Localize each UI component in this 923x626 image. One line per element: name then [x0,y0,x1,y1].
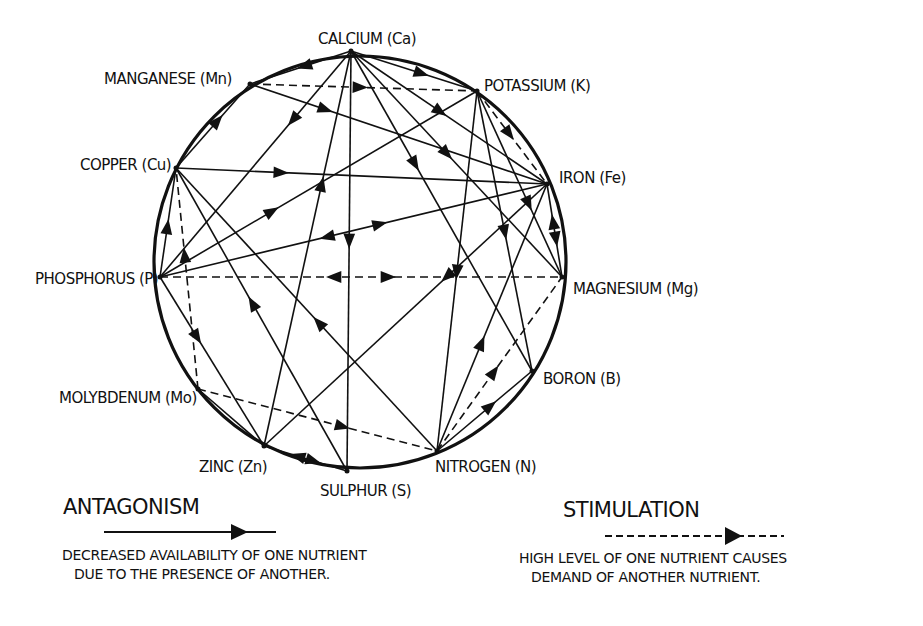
arrow-icon [188,328,201,344]
arrow-icon [343,234,355,249]
arrow-icon [353,81,369,93]
edge-k-fe [477,91,547,184]
edge-ca-s [343,51,355,471]
edge-p-mg [160,271,562,283]
edge-k-n [437,91,477,451]
arrow-icon [273,166,289,178]
arrow-icon [316,101,332,112]
legend-antagonism-desc-line2: due to the presence of another. [62,565,366,584]
node-label-zn: ZINC (Zn) [199,458,267,476]
edge-n-mg [437,277,562,451]
arrow-icon [180,247,192,263]
arrow-icon [161,219,173,235]
legend-stimulation-line [605,527,784,545]
edge-n-b [437,371,532,451]
legend-antagonism-title: ANTAGONISM [63,495,199,519]
edge-p-zn [160,277,264,446]
arrow-icon [249,297,262,313]
edge-p-k [160,91,477,277]
arrow-icon [263,207,279,220]
legend-stimulation-desc-line1: High level of one nutrient causes [519,549,787,568]
arrow-icon [500,124,514,140]
node-label-cu: COPPER (Cu) [80,156,171,174]
node-label-mg: MAGNESIUM (Mg) [573,280,698,298]
node-point-p [158,275,163,280]
node-label-n: NITROGEN (N) [435,458,536,476]
arrow-icon [473,336,484,352]
node-point-mn [248,82,253,87]
edge-ca-fe [351,51,547,184]
node-point-fe [545,182,550,187]
edge-mn-k [250,81,477,93]
node-point-zn [262,444,267,449]
arrow-icon [498,224,510,240]
node-point-cu [174,166,179,171]
node-label-mn: MANGANESE (Mn) [104,70,232,88]
node-point-n [435,449,440,454]
node-label-s: SULPHUR (S) [320,482,411,500]
arrow-icon [481,401,496,415]
arrow-icon [231,524,248,540]
node-label-k: POTASSIUM (K) [484,77,590,95]
arrow-icon [406,155,419,171]
node-label-p: PHOSPHORUS (P) [35,270,158,288]
node-point-mg [560,275,565,280]
edge-cu-fe [176,166,547,184]
arrow-icon [725,527,742,545]
legend-antagonism-description: Decreased availability of one nutrient d… [62,546,366,584]
legend-stimulation-desc-line2: demand of another nutrient. [519,568,787,587]
legend-stimulation-title: STIMULATION [563,498,700,522]
arrow-icon [288,110,302,126]
legend-stimulation-description: High level of one nutrient causes demand… [519,549,787,587]
edge-p-fe [160,184,547,277]
node-point-ca [349,49,354,54]
arrow-icon [371,220,387,231]
node-label-fe: IRON (Fe) [559,169,626,187]
arrow-icon [485,365,499,381]
arrow-icon [549,231,561,247]
arrow-icon [320,229,336,240]
node-point-k [475,89,480,94]
legend-antagonism-desc-line1: Decreased availability of one nutrient [62,546,366,565]
node-label-ca: CALCIUM (Ca) [318,30,416,48]
nutrient-interaction-diagram: CALCIUM (Ca)MANGANESE (Mn)POTASSIUM (K)C… [0,0,923,626]
node-point-b [530,369,535,374]
arrow-icon [326,271,341,283]
edge-s-cu [176,168,347,471]
nutrient-labels: CALCIUM (Ca)MANGANESE (Mn)POTASSIUM (K)C… [35,30,698,500]
edge-ca-b [351,51,532,371]
node-label-mo: MOLYBDENUM (Mo) [59,389,197,407]
arrow-icon [549,214,561,230]
edge-n-fe [437,184,547,451]
node-label-b: BORON (B) [543,370,621,388]
node-point-s [345,469,350,474]
legend-antagonism-line [104,524,276,540]
arrow-icon [381,271,396,283]
nutrient-wheel-circle [154,56,566,468]
